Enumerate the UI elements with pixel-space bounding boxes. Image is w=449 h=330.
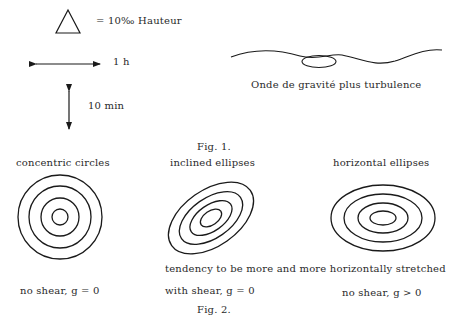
panel-title-concentric: concentric circles [16, 157, 110, 168]
panel-condition-inclined: with shear, g = 0 [165, 285, 255, 296]
gravity-wave-curve [231, 50, 442, 68]
horizontal-ellipses-diagram [331, 185, 435, 251]
triangle-legend-label: = 10‰ Hauteur [96, 15, 182, 26]
vertical-arrow-label: 10 min [88, 100, 124, 111]
horizontal-arrow-label: 1 h [113, 56, 130, 67]
concentric-circles-diagram [18, 175, 102, 259]
inclined-ellipses-diagram [156, 168, 267, 269]
panel-condition-concentric: no shear, g = 0 [20, 285, 100, 296]
fig2-caption: Fig. 2. [197, 304, 231, 315]
fig1-caption: Fig. 1. [197, 141, 231, 152]
panel-title-horizontal: horizontal ellipses [333, 157, 429, 168]
tendency-note: tendency to be more and more horizontall… [165, 263, 446, 274]
panel-title-inclined: inclined ellipses [170, 157, 255, 168]
triangle-icon [56, 10, 80, 33]
panel-condition-horizontal: no shear, g > 0 [342, 287, 422, 298]
wave-caption: Onde de gravité plus turbulence [251, 79, 421, 90]
